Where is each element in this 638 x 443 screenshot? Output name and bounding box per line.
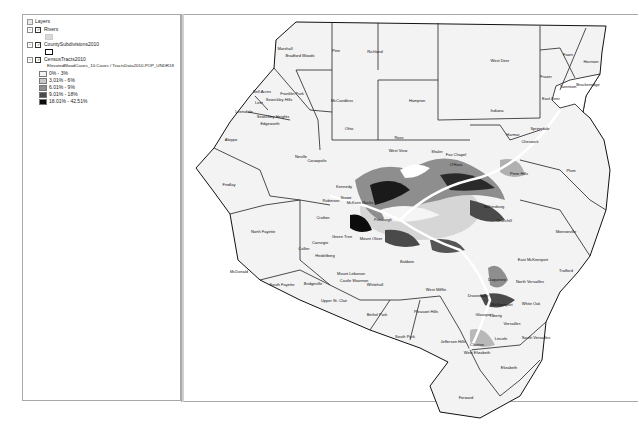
place-label: Green Tree — [332, 234, 353, 239]
place-label: Collier — [298, 246, 310, 251]
place-label: Jefferson Hills — [440, 339, 465, 344]
place-label: Bell Acres — [253, 89, 271, 94]
place-label: Monroeville — [556, 229, 577, 234]
place-label: Harrison — [583, 59, 598, 64]
place-label: South Fayette — [270, 282, 296, 287]
place-label: McDonald — [230, 269, 248, 274]
place-label: Leet — [255, 100, 264, 105]
place-label: Pittsburgh — [374, 217, 392, 222]
place-label: Richland — [367, 49, 383, 54]
place-label: Ross — [394, 135, 403, 140]
place-label: South Park — [395, 334, 415, 339]
place-label: North Fayette — [251, 229, 276, 234]
place-label: Edgeworth — [260, 121, 279, 126]
place-label: Upper St. Clair — [321, 298, 348, 303]
place-label: Versailles — [503, 321, 520, 326]
place-label: Indiana — [490, 108, 504, 113]
place-label: East Deer — [542, 96, 560, 101]
place-label: McCandless — [331, 98, 353, 103]
place-label: Marshall — [277, 46, 292, 51]
place-label: Fox Chapel — [446, 152, 467, 157]
place-label: Springdale — [530, 126, 550, 131]
place-label: South Versailles — [522, 335, 551, 340]
place-label: Bradford Woods — [286, 53, 315, 58]
place-label: Mount Lebanon — [337, 271, 365, 276]
place-label: Crafton — [316, 215, 329, 220]
place-label: McKees Rocks — [347, 200, 374, 205]
place-label: Brackenridge — [576, 82, 600, 87]
county-map[interactable]: MarshallBradford WoodsPineRichlandWest D… — [0, 0, 638, 443]
place-label: Carnegie — [312, 240, 329, 245]
place-label: Whitehall — [367, 282, 384, 287]
place-label: Trafford — [559, 268, 573, 273]
place-label: Lincoln — [495, 336, 508, 341]
place-label: McKeesport — [491, 302, 513, 307]
place-label: Liberty — [490, 313, 502, 318]
place-label: Neville — [295, 154, 308, 159]
place-label: West Mifflin — [426, 287, 447, 292]
place-label: Findlay — [223, 182, 236, 187]
place-label: Tarentum — [560, 84, 577, 89]
place-label: Pleasant Hills — [414, 309, 438, 314]
place-label: Fawn — [563, 52, 573, 57]
place-label: Clairton — [470, 342, 484, 347]
place-label: West Elizabeth — [464, 350, 491, 355]
place-label: O'Hara — [450, 162, 463, 167]
place-label: Dravosburg — [468, 293, 489, 298]
place-label: Baldwin — [400, 259, 414, 264]
place-label: Harmar — [506, 132, 520, 137]
place-label: Cheswick — [521, 139, 538, 144]
place-label: North Versailles — [516, 279, 544, 284]
place-label: Castle Shannon — [340, 278, 368, 283]
place-label: Ohio — [345, 126, 354, 131]
place-label: West Deer — [491, 58, 510, 63]
place-label: Plum — [566, 168, 576, 173]
place-label: Churchill — [496, 218, 512, 223]
place-label: West View — [389, 148, 408, 153]
place-label: Frazer — [540, 74, 552, 79]
place-label: Elizabeth — [501, 365, 517, 370]
place-label: Penn Hills — [510, 171, 528, 176]
place-label: Heidelberg — [315, 253, 334, 258]
place-label: Coraopolis — [307, 158, 326, 163]
place-label: Wilkinsburg — [484, 204, 505, 209]
place-label: Kennedy — [336, 184, 352, 189]
place-label: Pine — [332, 48, 341, 53]
place-label: Hampton — [409, 98, 425, 103]
place-label: Duquesne — [488, 277, 507, 282]
place-label: Mount Oliver — [360, 236, 383, 241]
place-label: Robinson — [323, 198, 340, 203]
place-label: Sewickley Heights — [257, 114, 289, 119]
place-label: Forward — [459, 395, 474, 400]
place-label: East McKeesport — [518, 257, 549, 262]
place-label: Sewickley Hills — [266, 97, 292, 102]
place-label: Aleppo — [225, 137, 238, 142]
place-label: Franklin Park — [280, 91, 304, 96]
place-label: Bridgeville — [304, 281, 323, 286]
place-label: Shaler — [431, 149, 443, 154]
place-label: Leetsdale — [235, 109, 253, 114]
place-label: Bethel Park — [367, 312, 388, 317]
place-label: White Oak — [522, 301, 541, 306]
